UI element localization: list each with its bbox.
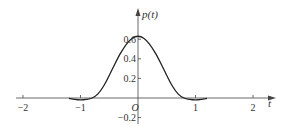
x-tick-label: 2 [251, 102, 256, 113]
y-axis-arrow-icon [136, 8, 141, 16]
y-tick-label: −0.2 [118, 112, 136, 123]
x-tick-label: −1 [75, 102, 86, 113]
x-tick-label: 1 [193, 102, 198, 113]
y-tick-label: 0.6 [124, 34, 137, 45]
axes [16, 8, 276, 124]
x-tick-label: −2 [18, 102, 29, 113]
y-tick-label: 0.4 [124, 53, 137, 64]
y-tick-label: 0.2 [124, 73, 137, 84]
pulse-chart: −2−1120.60.40.2−0.2 t p(t) O [0, 0, 288, 131]
origin-label: O [131, 102, 138, 113]
y-axis-label: p(t) [141, 8, 158, 21]
